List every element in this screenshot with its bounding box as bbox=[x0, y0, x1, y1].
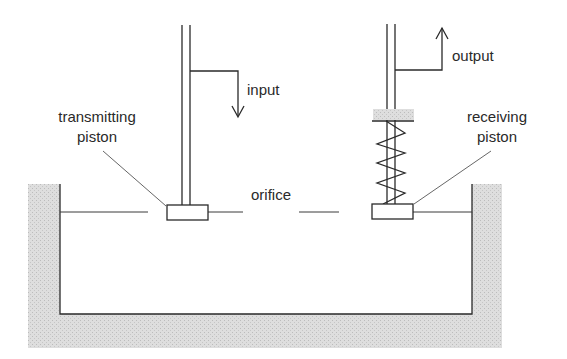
transmitting-piston-label-2: piston bbox=[77, 128, 117, 145]
receiving-piston-head bbox=[372, 204, 413, 219]
transmitting-piston-label-1: transmitting bbox=[58, 108, 136, 125]
output-label: output bbox=[452, 47, 495, 64]
spring-support-hatch bbox=[373, 109, 414, 120]
receiving-piston bbox=[372, 24, 448, 219]
transmitting-piston bbox=[167, 25, 244, 220]
transmitting-leader bbox=[103, 151, 166, 206]
receiving-piston-label-2: piston bbox=[477, 128, 517, 145]
input-label: input bbox=[247, 81, 280, 98]
input-branch bbox=[190, 71, 238, 116]
receiving-piston-label-1: receiving bbox=[467, 108, 527, 125]
output-branch bbox=[395, 28, 442, 70]
orifice-label: orifice bbox=[251, 186, 291, 203]
hydraulic-coupling-diagram: input output transmitting piston receivi… bbox=[0, 0, 567, 359]
transmitting-piston-head bbox=[167, 205, 208, 220]
container bbox=[28, 184, 502, 348]
container-wall-hatch bbox=[28, 184, 502, 348]
spring bbox=[377, 121, 405, 204]
